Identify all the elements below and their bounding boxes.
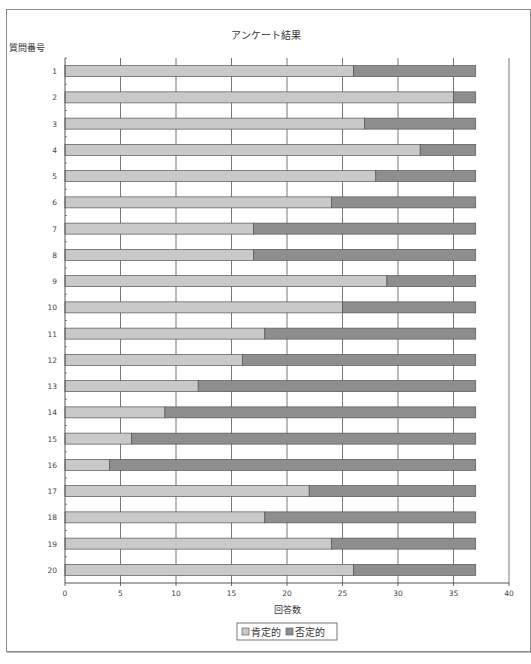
bar-q6-positive [65,197,331,208]
bar-q14-negative [165,407,476,418]
bar-q6-negative [331,197,475,208]
bar-q18-negative [265,512,476,523]
bar-q17-positive [65,486,309,497]
bar-q14-positive [65,407,165,418]
x-tick-label: 10 [171,589,181,598]
y-tick-label: 10 [47,303,57,312]
bars [65,66,476,576]
y-tick-label: 20 [47,566,57,575]
legend-label-positive: 肯定的 [251,626,281,638]
y-axis-label: 質問番号 [9,42,45,53]
x-axis-label: 回答数 [274,604,301,615]
y-tick-label: 4 [52,146,57,155]
bar-q4-negative [420,144,476,155]
chart: アンケート結果 質問番号 123456789101112131415161718… [0,0,531,664]
x-tick-label: 40 [504,589,514,598]
legend: 肯定的 否定的 [237,623,337,640]
y-tick-label: 2 [52,93,57,102]
bar-q8-positive [65,249,254,260]
legend-swatch-positive [242,628,249,635]
bar-q1-positive [65,66,354,77]
bar-q19-positive [65,538,331,549]
y-tick-label: 16 [47,461,57,470]
x-tick-label: 30 [393,589,403,598]
bar-q7-positive [65,223,254,234]
bar-q2-negative [454,92,476,103]
bar-q12-negative [243,354,476,365]
bar-q2-positive [65,92,454,103]
x-tick-label: 35 [449,589,459,598]
x-tick-label: 0 [63,589,68,598]
x-tick-label: 5 [118,589,123,598]
legend-label-negative: 否定的 [295,626,325,638]
bar-q19-negative [331,538,475,549]
bar-q17-negative [309,486,476,497]
bar-q18-positive [65,512,265,523]
bar-q9-negative [387,276,476,287]
bar-q7-negative [254,223,476,234]
x-tick-labels: 0510152025303540 [63,589,514,598]
bar-q20-negative [354,564,476,575]
x-tick-label: 15 [227,589,237,598]
bar-q3-negative [365,118,476,129]
bar-q1-negative [354,66,476,77]
y-tick-label: 17 [47,487,57,496]
y-tick-label: 5 [52,172,57,181]
gridlines [121,58,510,583]
bar-q8-negative [254,249,476,260]
bar-q13-positive [65,381,198,392]
bar-q16-positive [65,459,109,470]
bar-q13-negative [198,381,476,392]
y-tick-label: 14 [47,408,57,417]
bar-q5-positive [65,171,376,182]
y-tick-label: 9 [52,277,57,286]
bar-q10-positive [65,302,343,313]
y-tick-label: 3 [52,120,57,129]
bar-q4-positive [65,144,420,155]
y-tick-label: 7 [52,225,57,234]
bar-q11-positive [65,328,265,339]
bar-q16-negative [109,459,475,470]
x-tick-label: 25 [338,589,348,598]
y-tick-label: 19 [47,540,57,549]
bar-q12-positive [65,354,243,365]
y-tick-label: 18 [47,513,57,522]
bar-q3-positive [65,118,365,129]
x-tick-label: 20 [282,589,292,598]
bar-q10-negative [343,302,476,313]
y-tick-label: 11 [47,330,57,339]
y-tick-label: 12 [47,356,57,365]
bar-q15-negative [132,433,476,444]
bar-q5-negative [376,171,476,182]
bar-q9-positive [65,276,387,287]
y-tick-labels: 1234567891011121314151617181920 [47,67,57,575]
bar-q15-positive [65,433,132,444]
y-tick-label: 1 [52,67,57,76]
bar-q11-negative [265,328,476,339]
y-tick-label: 15 [47,435,57,444]
y-tick-label: 6 [52,198,57,207]
chart-title: アンケート結果 [231,29,301,41]
bar-q20-positive [65,564,354,575]
y-tick-label: 13 [47,382,57,391]
legend-swatch-negative [286,628,293,635]
y-tick-label: 8 [52,251,57,260]
